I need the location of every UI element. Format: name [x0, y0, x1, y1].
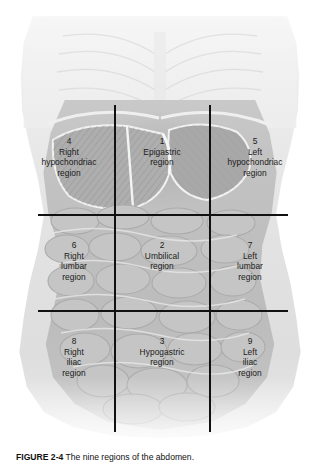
region-name-line2: lumbar: [40, 261, 108, 271]
region-number: 8: [40, 336, 108, 347]
region-name-line1: Right: [40, 251, 108, 261]
region-name-line3: region: [216, 368, 284, 378]
anatomy-photo-plate: [15, 0, 305, 446]
region-name-line1: Left: [212, 147, 298, 157]
region-number: 6: [40, 240, 108, 251]
grid-vertical-left: [114, 105, 116, 432]
region-label-9: 9 Left iliac region: [216, 336, 284, 378]
region-label-6: 6 Right lumbar region: [40, 240, 108, 282]
region-name-line3: region: [212, 168, 298, 178]
region-name-line1: Umbilical: [120, 251, 204, 261]
region-name-line3: region: [26, 168, 112, 178]
grid-horizontal-lower: [38, 310, 288, 312]
region-name-line2: region: [120, 261, 204, 271]
region-label-1: 1 Epigastric region: [120, 136, 204, 168]
region-name-line1: Right: [26, 147, 112, 157]
figure-container: 4 Right hypochondriac region 1 Epigastri…: [0, 0, 323, 468]
region-name-line2: iliac: [40, 357, 108, 367]
region-label-8: 8 Right iliac region: [40, 336, 108, 378]
region-name-line1: Left: [216, 347, 284, 357]
region-name-line2: region: [118, 357, 206, 367]
region-number: 5: [212, 136, 298, 147]
plate-top-fade: [15, 0, 305, 16]
region-name-line1: Right: [40, 347, 108, 357]
figure-caption-text: The nine regions of the abdomen.: [66, 452, 195, 462]
figure-number: FIGURE 2-4: [16, 452, 63, 462]
region-number: 1: [120, 136, 204, 147]
region-label-5: 5 Left hypochondriac region: [212, 136, 298, 178]
figure-caption: FIGURE 2-4 The nine regions of the abdom…: [16, 452, 316, 463]
region-name-line2: iliac: [216, 357, 284, 367]
region-number: 9: [216, 336, 284, 347]
region-name-line1: Hypogastric: [118, 347, 206, 357]
region-label-7: 7 Left lumbar region: [216, 240, 284, 282]
region-name-line2: hypochondriac: [212, 157, 298, 167]
region-name-line3: region: [40, 272, 108, 282]
region-label-4: 4 Right hypochondriac region: [26, 136, 112, 178]
region-name-line2: hypochondriac: [26, 157, 112, 167]
region-name-line3: region: [40, 368, 108, 378]
region-name-line3: region: [216, 272, 284, 282]
region-name-line2: region: [120, 157, 204, 167]
region-name-line1: Left: [216, 251, 284, 261]
region-number: 3: [118, 336, 206, 347]
region-number: 2: [120, 240, 204, 251]
region-label-2: 2 Umbilical region: [120, 240, 204, 272]
region-name-line2: lumbar: [216, 261, 284, 271]
region-number: 7: [216, 240, 284, 251]
region-name-line1: Epigastric: [120, 147, 204, 157]
grid-horizontal-upper: [38, 214, 288, 216]
region-number: 4: [26, 136, 112, 147]
region-label-3: 3 Hypogastric region: [118, 336, 206, 368]
grid-vertical-right: [209, 105, 211, 432]
intestine-illustration: [41, 205, 279, 430]
